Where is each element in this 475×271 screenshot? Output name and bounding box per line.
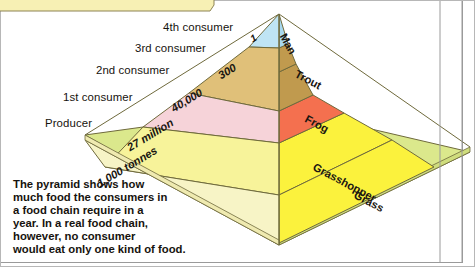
pyramid-figure: 4th consumer 3rd consumer 2nd consumer 1… — [0, 0, 475, 271]
tier-label-2nd-consumer: 2nd consumer — [96, 64, 169, 76]
caption-line-3: a food chain require in a — [13, 204, 229, 217]
caption-line-4: year. In a real food chain, — [13, 217, 229, 230]
tier-label-producer: Producer — [45, 117, 92, 129]
caption-line-5: however, no consumer — [13, 230, 229, 243]
tier-label-3rd-consumer: 3rd consumer — [135, 42, 206, 54]
tier-label-4th-consumer: 4th consumer — [163, 21, 233, 33]
top-banner — [0, 0, 214, 11]
caption-line-6: would eat only one kind of food. — [13, 243, 229, 256]
tier-label-1st-consumer: 1st consumer — [63, 91, 133, 103]
caption-line-1: The pyramid shows how — [13, 178, 229, 191]
caption-line-2: much food the consumers in — [13, 191, 229, 204]
figure-caption: The pyramid shows how much food the cons… — [13, 178, 229, 256]
